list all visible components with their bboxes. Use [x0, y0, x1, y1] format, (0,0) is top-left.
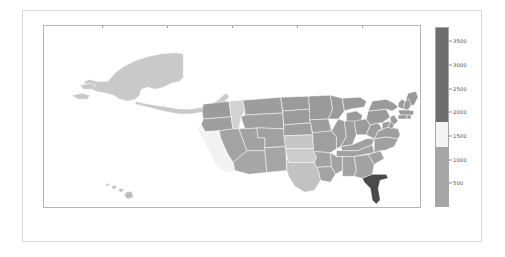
- colorbar-tick-mark: [449, 41, 452, 42]
- colorbar-tick-label: 2000: [453, 109, 467, 115]
- y-tick-mark: [43, 132, 44, 133]
- region-north-carolina[interactable]: [374, 137, 398, 153]
- map-axes: 203040506070 −160−140−120−100−80: [43, 25, 421, 208]
- region-oklahoma[interactable]: [286, 149, 317, 163]
- colorbar-tick-label: 3000: [453, 62, 467, 68]
- colorbar-tick-mark: [449, 64, 452, 65]
- region-iowa[interactable]: [310, 119, 332, 133]
- y-tick-mark: [43, 35, 44, 36]
- region-rhode-island[interactable]: [407, 115, 411, 119]
- usa-choropleth-map: [44, 26, 420, 207]
- colorbar-tick-label: 3500: [453, 38, 467, 44]
- region-minnesota[interactable]: [309, 95, 333, 120]
- x-tick-mark: [167, 25, 168, 28]
- x-tick-mark: [102, 25, 103, 28]
- region-hawaii[interactable]: [106, 183, 134, 199]
- colorbar-tick-mark: [449, 88, 452, 89]
- colorbar-tick-mark: [449, 135, 452, 136]
- figure-panel: 203040506070 −160−140−120−100−80 5001000…: [22, 10, 482, 242]
- colorbar-tick-label: 1000: [453, 157, 467, 163]
- colorbar-band: [436, 122, 448, 148]
- colorbar-tick-mark: [449, 112, 452, 113]
- region-massachusetts[interactable]: [398, 110, 414, 115]
- region-new-mexico[interactable]: [265, 147, 287, 173]
- region-alabama[interactable]: [342, 157, 356, 177]
- region-montana[interactable]: [243, 97, 283, 115]
- colorbar-tick-label: 1500: [453, 133, 467, 139]
- y-tick-mark: [43, 68, 44, 69]
- region-kansas[interactable]: [284, 135, 314, 149]
- y-tick-mark: [43, 197, 44, 198]
- y-tick-mark: [43, 100, 44, 101]
- region-arkansas[interactable]: [314, 152, 332, 168]
- region-washington[interactable]: [202, 101, 231, 119]
- colorbar-tick-mark: [449, 159, 452, 160]
- x-tick-mark: [362, 25, 363, 28]
- colorbar-tick-label: 2500: [453, 86, 467, 92]
- region-nebraska[interactable]: [284, 123, 313, 136]
- colorbar-band: [436, 147, 448, 206]
- colorbar-gradient: [435, 27, 449, 207]
- colorbar[interactable]: 500100015002000250030003500: [435, 27, 449, 207]
- x-tick-mark: [232, 25, 233, 28]
- region-north-dakota[interactable]: [281, 96, 310, 111]
- colorbar-tick-mark: [449, 183, 452, 184]
- region-connecticut[interactable]: [398, 115, 407, 119]
- colorbar-band: [436, 28, 448, 122]
- region-wyoming[interactable]: [241, 113, 284, 129]
- x-tick-mark: [297, 25, 298, 28]
- region-missouri[interactable]: [313, 131, 337, 153]
- region-south-dakota[interactable]: [283, 109, 311, 125]
- region-florida[interactable]: [362, 174, 388, 204]
- y-tick-mark: [43, 164, 44, 165]
- region-new-york[interactable]: [368, 99, 398, 111]
- colorbar-tick-label: 500: [453, 180, 463, 186]
